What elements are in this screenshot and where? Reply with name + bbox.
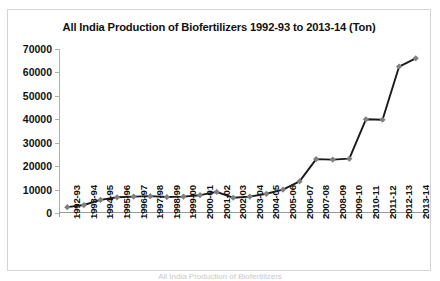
- data-point-marker: 2010-11: 40000: [363, 116, 369, 122]
- y-axis-tick-label: 60000: [23, 66, 52, 78]
- chart-card: All India Production of Biofertilizers 1…: [7, 9, 431, 271]
- data-point-marker: 1995-96: 6700: [114, 194, 120, 200]
- footer-caption: All India Production of Biofertilizers: [0, 272, 440, 281]
- series-polyline: [67, 58, 415, 207]
- plot-area: 700006000050000400003000020000100000 199…: [59, 49, 424, 213]
- data-point-marker: 2011-12: 39800: [379, 117, 385, 123]
- data-point-marker: 1992-93: 2500: [64, 204, 70, 210]
- y-axis-tick-label: 20000: [23, 160, 52, 172]
- data-point-marker: 2003-04: 7000: [247, 194, 253, 200]
- data-point-marker: 2008-09: 22800: [330, 156, 336, 162]
- y-axis-tick-label: 0: [46, 207, 52, 219]
- y-axis-tick-label: 30000: [23, 137, 52, 149]
- data-point-marker: 2001-02: 9000: [214, 189, 220, 195]
- data-point-marker: 2013-14: 66000: [413, 55, 419, 61]
- data-point-marker: 2004-05: 8200: [263, 191, 269, 197]
- chart-title: All India Production of Biofertilizers 1…: [8, 21, 430, 33]
- x-axis-tick-mark: [59, 213, 60, 217]
- data-point-marker: 1994-95: 5600: [97, 197, 103, 203]
- data-point-marker: 1996-97: 7000: [131, 194, 137, 200]
- data-point-marker: 1999-00: 7000: [180, 194, 186, 200]
- data-point-marker: 1993-94: 3400: [81, 202, 87, 208]
- data-point-marker: 1998-99: 6800: [164, 194, 170, 200]
- data-point-marker: 1997-98: 7200: [147, 193, 153, 199]
- y-axis-tick-label: 10000: [23, 184, 52, 196]
- data-point-marker: 2009-10: 23200: [346, 156, 352, 162]
- data-point-marker: 2000-01: 7600: [197, 192, 203, 198]
- y-axis-tick-label: 70000: [23, 43, 52, 55]
- data-series-line: 1992-93: 25001993-94: 34001994-95: 56001…: [59, 49, 424, 213]
- data-point-marker: 2005-06: 10000: [280, 186, 286, 192]
- y-axis-tick-label: 40000: [23, 113, 52, 125]
- data-point-marker: 2002-03: 6500: [230, 195, 236, 201]
- y-axis-tick-label: 50000: [23, 90, 52, 102]
- data-point-marker: 2012-13: 62500: [396, 63, 402, 69]
